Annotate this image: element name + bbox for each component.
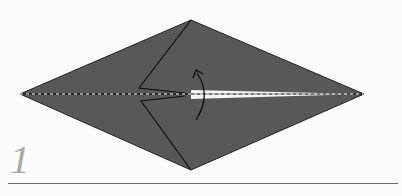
origami-diagram — [0, 0, 402, 196]
step-number: 1 — [10, 140, 30, 180]
divider — [8, 183, 398, 184]
